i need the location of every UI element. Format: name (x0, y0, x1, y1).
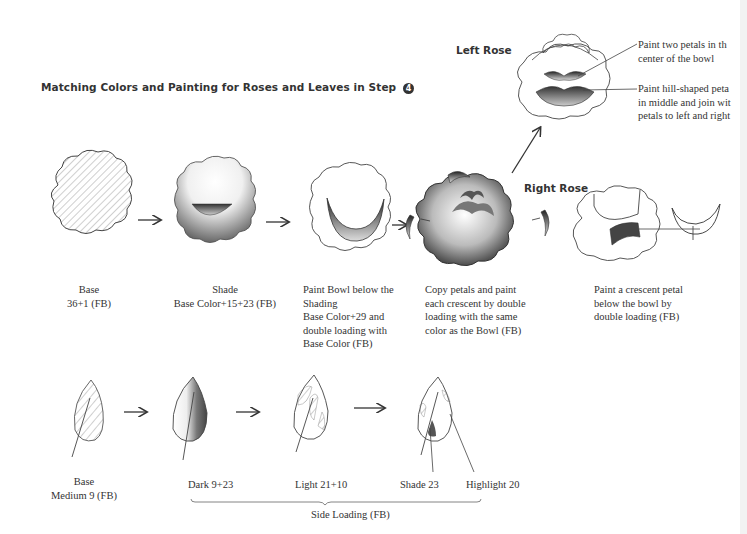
left-rose-drawing (517, 34, 610, 119)
leaf-shade-highlight-drawing (418, 377, 474, 472)
left-rose-note-1: Paint two petals in th center of the bow… (638, 38, 727, 65)
side-loading-bracket (191, 499, 481, 505)
leaf-caption-shade: Shade 23 (400, 479, 439, 490)
leaf-base-drawing (72, 380, 103, 457)
illustration-canvas (0, 0, 747, 534)
page-edge (740, 0, 747, 534)
rose-step-caption-5: Paint a crescent petal below the bowl by… (594, 283, 683, 324)
left-rose-heading: Left Rose (456, 44, 512, 56)
rose-bowl-drawing (310, 162, 391, 250)
rose-step-caption-4: Copy petals and paint each crescent by d… (425, 283, 526, 337)
leaf-caption-light: Light 21+10 (295, 479, 347, 490)
rose-shade-drawing (175, 156, 256, 242)
arrow-to-left-rose (512, 128, 540, 173)
leaf-caption-highlight: Highlight 20 (466, 479, 519, 490)
rose-base-drawing (51, 150, 132, 233)
side-loading-label: Side Loading (FB) (311, 509, 390, 520)
right-rose-drawing (573, 186, 720, 261)
rose-step-caption-3: Paint Bowl below the Shading Base Color+… (303, 283, 394, 351)
crescent-left (406, 215, 414, 239)
right-rose-heading: Right Rose (524, 182, 588, 194)
rose-step-caption-1: Base 36+1 (FB) (54, 283, 124, 310)
rose-step-caption-2: Shade Base Color+15+23 (FB) (160, 283, 290, 310)
leaf-caption-dark: Dark 9+23 (188, 479, 233, 490)
leaf-caption-base: Base Medium 9 (FB) (44, 475, 124, 502)
leaf-light-drawing (294, 375, 328, 452)
crescent-right (541, 210, 549, 236)
instruction-page: Matching Colors and Painting for Roses a… (0, 0, 747, 534)
left-rose-note-2: Paint hill-shaped peta in middle and joi… (638, 82, 731, 123)
leaf-dark-drawing (173, 377, 207, 460)
